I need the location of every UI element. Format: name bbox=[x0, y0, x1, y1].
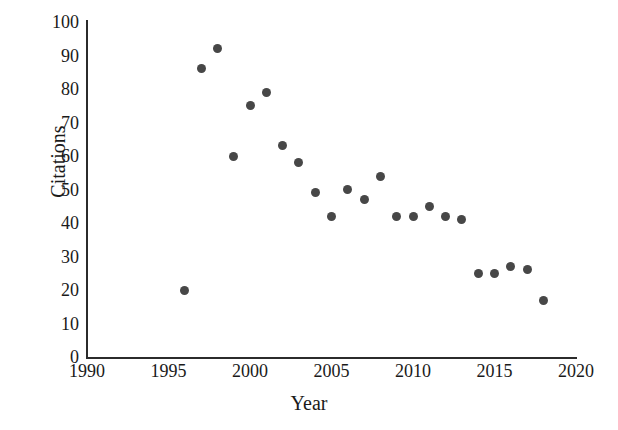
x-tick-label: 2015 bbox=[477, 362, 513, 380]
data-point bbox=[311, 188, 320, 197]
data-point bbox=[327, 212, 336, 221]
x-tick-label: 2000 bbox=[232, 362, 268, 380]
data-point bbox=[262, 88, 271, 97]
data-point bbox=[197, 64, 206, 73]
data-point bbox=[474, 269, 483, 278]
y-tick-label: 30 bbox=[61, 248, 79, 266]
data-point bbox=[523, 265, 532, 274]
data-point bbox=[246, 101, 255, 110]
y-axis-title: Citations bbox=[47, 92, 70, 232]
data-point bbox=[180, 286, 189, 295]
data-point bbox=[278, 141, 287, 150]
y-tick-label: 10 bbox=[61, 315, 79, 333]
data-point bbox=[213, 44, 222, 53]
data-point bbox=[229, 152, 238, 161]
data-point bbox=[539, 296, 548, 305]
x-axis-title: Year bbox=[0, 392, 618, 415]
data-point bbox=[376, 172, 385, 181]
data-point bbox=[506, 262, 515, 271]
x-tick-label: 2005 bbox=[314, 362, 350, 380]
y-tick-label: 90 bbox=[61, 47, 79, 65]
x-axis-line bbox=[86, 357, 577, 359]
data-point bbox=[490, 269, 499, 278]
data-point bbox=[294, 158, 303, 167]
x-tick-label: 2020 bbox=[558, 362, 594, 380]
data-point bbox=[392, 212, 401, 221]
data-point bbox=[425, 202, 434, 211]
x-tick-label: 1990 bbox=[69, 362, 105, 380]
data-point bbox=[457, 215, 466, 224]
data-point bbox=[360, 195, 369, 204]
x-tick-label: 1995 bbox=[151, 362, 187, 380]
y-tick-label: 20 bbox=[61, 281, 79, 299]
scatter-plot-figure: 0102030405060708090100 19901995200020052… bbox=[0, 0, 618, 430]
x-tick-label: 2010 bbox=[395, 362, 431, 380]
y-tick-label: 100 bbox=[52, 13, 79, 31]
data-point bbox=[441, 212, 450, 221]
plot-area bbox=[87, 22, 576, 357]
data-point bbox=[409, 212, 418, 221]
data-point bbox=[343, 185, 352, 194]
